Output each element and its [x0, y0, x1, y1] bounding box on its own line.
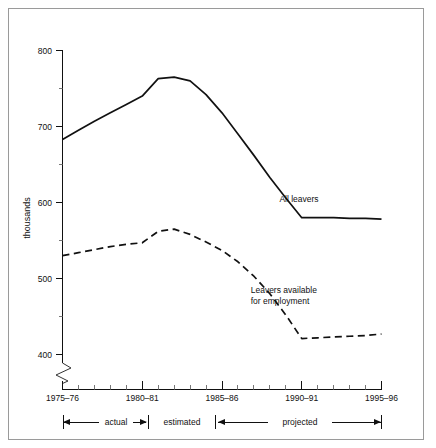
- axis-break-zigzag: [56, 363, 71, 384]
- phase-label-estimated: estimated: [164, 417, 201, 427]
- y-tick-label: 700: [38, 122, 52, 132]
- annotation-leavers-available-line1: Leavers available: [251, 285, 317, 295]
- y-axis-label: thousands: [22, 197, 32, 239]
- annotation-all-leavers: All leavers: [279, 194, 318, 204]
- x-tick-label: 1980–81: [126, 393, 159, 403]
- series-line-all-leavers: [63, 77, 382, 219]
- phase-label-actual: actual: [105, 417, 128, 427]
- y-tick-label: 800: [38, 46, 52, 56]
- y-axis-major-ticks: [56, 51, 63, 355]
- line-chart: thousands 800 700 600 500 400: [0, 0, 436, 448]
- x-tick-label: 1985–86: [205, 393, 238, 403]
- y-tick-label: 600: [38, 198, 52, 208]
- y-tick-label: 500: [38, 274, 52, 284]
- phase-bracket-bar: actual estimated projected: [63, 415, 381, 429]
- annotation-leavers-available-line2: for employment: [251, 296, 310, 306]
- x-tick-label: 1975–76: [46, 393, 79, 403]
- x-tick-label: 1990–91: [285, 393, 318, 403]
- phase-label-projected: projected: [283, 417, 318, 427]
- x-tick-label: 1995–96: [365, 393, 398, 403]
- y-axis-tick-labels: 800 700 600 500 400: [38, 46, 52, 360]
- figure-container: thousands 800 700 600 500 400: [0, 0, 436, 448]
- series-line-leavers-available: [63, 229, 382, 338]
- y-tick-label: 400: [38, 350, 52, 360]
- x-axis-tick-labels: 1975–76 1980–81 1985–86 1990–91 1995–96: [46, 393, 398, 403]
